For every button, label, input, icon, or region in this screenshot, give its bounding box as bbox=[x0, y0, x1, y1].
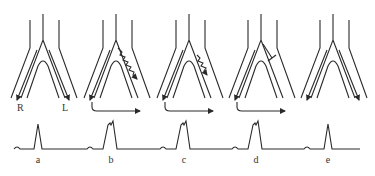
panel-label: b bbox=[109, 154, 114, 165]
conduction-arrow-icon bbox=[307, 50, 359, 100]
conduction-block-icon bbox=[263, 44, 276, 61]
reentry-arrow-icon bbox=[237, 102, 285, 111]
panel-e bbox=[301, 14, 367, 100]
reentry-arrow-icon bbox=[92, 102, 140, 111]
panel-d bbox=[229, 14, 295, 111]
bundle-branch-shape bbox=[11, 14, 77, 98]
panel-c bbox=[157, 14, 223, 111]
diagram-canvas: abcde R L bbox=[0, 0, 375, 176]
panel-label: e bbox=[326, 154, 331, 165]
bundle-branch-shape bbox=[301, 14, 367, 98]
panel-label: c bbox=[182, 154, 187, 165]
conduction-arrow-icon bbox=[17, 50, 69, 100]
bundle-branch-shape bbox=[157, 14, 223, 98]
panel-label: d bbox=[254, 154, 259, 165]
bundle-branch-shape bbox=[229, 14, 295, 98]
panel-b bbox=[84, 14, 150, 111]
bundle-branch-shape bbox=[84, 14, 150, 98]
left-side-label: L bbox=[62, 102, 68, 113]
reentry-arrow-icon bbox=[165, 102, 213, 111]
conduction-diagram-figure: abcde R L bbox=[0, 0, 375, 176]
right-side-label: R bbox=[17, 102, 24, 113]
ecg-trace bbox=[14, 121, 360, 149]
panel-label: a bbox=[36, 154, 41, 165]
panel-a bbox=[11, 14, 77, 100]
